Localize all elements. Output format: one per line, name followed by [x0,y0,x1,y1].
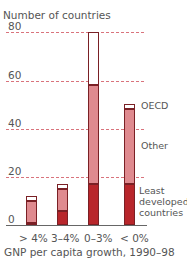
oecd-segment [26,196,37,201]
legend-oecd: OECD [141,100,168,111]
bar [26,0,37,225]
bar [124,0,135,225]
legend-ldc-line: developed [139,196,187,207]
x-axis-label: GNP per capita growth, 1990–98 [4,246,175,258]
y-tick-40: 40 [8,117,21,129]
ldc-segment [88,184,99,225]
bar [57,0,68,225]
y-tick-0: 0 [8,213,15,225]
legend-ldc-line: Least [139,185,187,196]
category-label: > 4% [19,232,48,244]
ldc-segment [57,211,68,225]
oecd-segment [124,104,135,109]
y-tick-60: 60 [8,69,21,81]
legend-ldc: Least developed countries [139,185,187,218]
legend-ldc-line: countries [139,207,187,218]
other-segment [26,201,37,223]
other-segment [57,189,68,211]
bar [88,0,99,225]
other-segment [88,85,99,184]
legend-other: Other [141,140,168,151]
y-tick-20: 20 [8,165,21,177]
other-segment [124,109,135,184]
x-axis-baseline [6,225,147,226]
category-label: < 0% [120,232,149,244]
category-label: 0–3% [84,232,113,244]
oecd-segment [57,184,68,189]
category-label: 3–4% [51,232,80,244]
oecd-segment [88,32,99,85]
ldc-segment [124,184,135,225]
ldc-segment [26,223,37,225]
y-tick-80: 80 [8,20,21,32]
